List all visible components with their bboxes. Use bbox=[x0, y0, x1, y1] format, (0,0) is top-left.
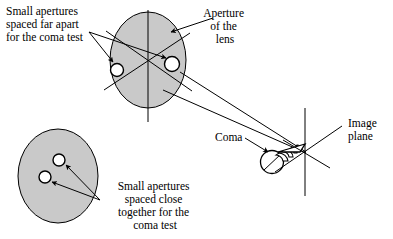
aperture-line-2: of the bbox=[210, 20, 237, 32]
far-apart-line-1: Small apertures bbox=[6, 5, 78, 18]
close-together-line-3: together for the bbox=[118, 206, 189, 219]
coma-line-1: Coma bbox=[215, 131, 242, 143]
image-plane-line-1: Image bbox=[348, 117, 377, 130]
close-together-line-4: coma test bbox=[133, 219, 178, 231]
aperture-hole-left bbox=[111, 64, 124, 77]
close-together-line-1: Small apertures bbox=[118, 180, 190, 193]
far-apart-line-3: for the coma test bbox=[6, 31, 84, 43]
coma-leader bbox=[245, 138, 268, 152]
far-apart-line-2: spaced far apart bbox=[6, 18, 80, 31]
small-apertures-close-together-label: Small apertures spaced close together fo… bbox=[118, 180, 193, 231]
aperture-line-1: Aperture bbox=[203, 7, 244, 20]
ray-lower bbox=[163, 90, 306, 153]
diagram-canvas: Small apertures spaced far apart for the… bbox=[0, 0, 393, 239]
close-together-line-2: spaced close bbox=[125, 193, 183, 206]
aperture-line-3: lens bbox=[216, 33, 235, 45]
coma-label: Coma bbox=[215, 131, 242, 143]
aperture-of-lens-arrow bbox=[171, 18, 213, 32]
aperture-of-the-lens-label: Aperture of the lens bbox=[203, 7, 247, 45]
coma-arrow bbox=[245, 138, 268, 152]
aperture-hole-lower bbox=[39, 171, 51, 183]
coma-flare-group bbox=[261, 144, 306, 174]
aperture-hole-right bbox=[165, 57, 180, 72]
coma-test-diagram: Small apertures spaced far apart for the… bbox=[0, 0, 393, 239]
image-plane-label: Image plane bbox=[348, 117, 380, 143]
aperture-hole-upper bbox=[53, 154, 65, 166]
image-plane-diagonal-a bbox=[275, 126, 342, 172]
image-plane-line-2: plane bbox=[348, 130, 373, 143]
lower-lens-aperture-ellipse bbox=[18, 129, 98, 223]
ray-upper bbox=[180, 72, 306, 152]
aperture-of-lens-leader bbox=[171, 18, 213, 32]
small-apertures-far-apart-label: Small apertures spaced far apart for the… bbox=[6, 5, 84, 43]
lower-lens-group bbox=[18, 129, 98, 223]
upper-lens-group bbox=[104, 10, 192, 122]
